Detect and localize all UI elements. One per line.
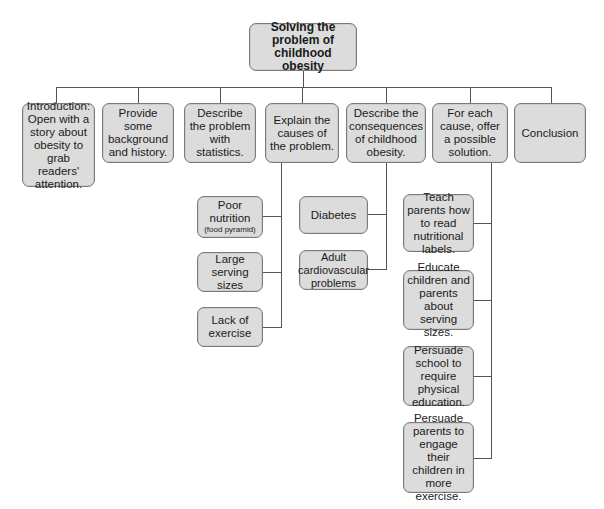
topic-label: For each cause, offer a possible solutio… bbox=[436, 107, 504, 159]
topic-bus-line bbox=[56, 87, 552, 88]
solution-link-4 bbox=[474, 458, 492, 459]
topic-label: Describe the consequences of childhood o… bbox=[349, 107, 423, 159]
cause-poor-nutrition: Poor nutrition (food pyramid) bbox=[197, 196, 263, 238]
causes-trunk bbox=[281, 163, 282, 328]
cause-label: Large serving sizes bbox=[201, 253, 259, 292]
topic-label: Describe the problem with statistics. bbox=[188, 107, 252, 159]
topic-statistics: Describe the problem with statistics. bbox=[184, 103, 256, 163]
solution-more-exercise: Persuade parents to engage their childre… bbox=[403, 422, 474, 493]
root-label: Solving the problem of childhood obesity bbox=[253, 21, 353, 73]
topic-drop-2 bbox=[138, 87, 139, 103]
cause-label: Poor nutrition bbox=[200, 199, 261, 225]
solution-label: Teach parents how to read nutritional la… bbox=[407, 191, 470, 256]
topic-label: Conclusion bbox=[522, 127, 579, 140]
topic-drop-6 bbox=[470, 87, 471, 103]
topic-conclusion: Conclusion bbox=[514, 103, 586, 163]
solution-link-1 bbox=[474, 223, 492, 224]
cause-note: (food pyramid) bbox=[204, 225, 256, 235]
solution-serving-sizes: Educate children and parents about servi… bbox=[403, 270, 474, 330]
solution-nutrition-labels: Teach parents how to read nutritional la… bbox=[403, 194, 474, 252]
consequence-diabetes: Diabetes bbox=[299, 196, 368, 234]
solution-link-2 bbox=[474, 300, 492, 301]
consequence-label: Diabetes bbox=[311, 209, 356, 222]
solution-physical-education: Persuade school to require physical educ… bbox=[403, 346, 474, 406]
topic-label: Provide some background and history. bbox=[106, 107, 170, 159]
cause-link-1 bbox=[263, 216, 282, 217]
consequence-cardiovascular: Adult cardiovascular problems bbox=[299, 250, 368, 290]
cause-lack-of-exercise: Lack of exercise bbox=[197, 307, 263, 347]
solution-label: Educate children and parents about servi… bbox=[407, 261, 470, 339]
cause-large-serving-sizes: Large serving sizes bbox=[197, 252, 263, 292]
consequence-label: Adult cardiovascular problems bbox=[298, 251, 369, 290]
topic-drop-5 bbox=[386, 87, 387, 103]
solution-label: Persuade school to require physical educ… bbox=[407, 344, 470, 409]
topic-background: Provide some background and history. bbox=[102, 103, 174, 163]
topic-solutions: For each cause, offer a possible solutio… bbox=[432, 103, 508, 163]
solution-link-3 bbox=[474, 376, 492, 377]
topic-label: Explain the causes of the problem. bbox=[269, 114, 335, 153]
topic-drop-7 bbox=[551, 87, 552, 103]
topic-introduction: Introduction: Open with a story about ob… bbox=[22, 103, 95, 187]
topic-label: Introduction: Open with a story about ob… bbox=[26, 100, 91, 191]
cause-link-2 bbox=[263, 272, 282, 273]
cause-link-3 bbox=[263, 327, 282, 328]
topic-consequences: Describe the consequences of childhood o… bbox=[346, 103, 426, 163]
consequence-link-2 bbox=[368, 269, 387, 270]
cause-label: Lack of exercise bbox=[201, 314, 260, 340]
consequences-trunk bbox=[386, 163, 387, 270]
root-node: Solving the problem of childhood obesity bbox=[249, 23, 357, 71]
solution-label: Persuade parents to engage their childre… bbox=[407, 412, 470, 503]
topic-drop-3 bbox=[220, 87, 221, 103]
consequence-link-1 bbox=[368, 214, 387, 215]
solutions-trunk bbox=[491, 163, 492, 459]
topic-causes: Explain the causes of the problem. bbox=[265, 103, 339, 163]
topic-drop-4 bbox=[302, 87, 303, 103]
